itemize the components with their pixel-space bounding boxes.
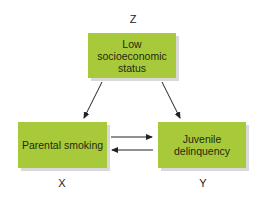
arrow-z-to-y — [162, 82, 180, 118]
arrow-z-to-x — [84, 82, 102, 118]
arrows-layer — [0, 0, 260, 201]
